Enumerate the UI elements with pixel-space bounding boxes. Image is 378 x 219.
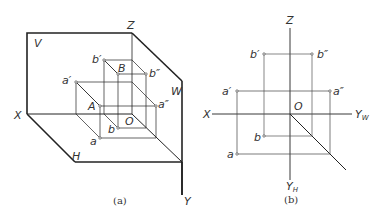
label-b-prime-b: b′ (250, 48, 260, 61)
h-plane-left-edge (27, 114, 75, 162)
label-b-double-prime: b″ (149, 67, 161, 80)
label-z: Z (126, 19, 135, 32)
label-a-b: a (227, 148, 234, 161)
label-z-b: Z (285, 14, 294, 27)
label-b-double-prime-b: b″ (317, 48, 329, 61)
label-y: Y (184, 195, 192, 208)
label-v-plane: V (34, 37, 43, 50)
caption-b: (b) (284, 194, 298, 205)
label-a-prime: a′ (62, 74, 72, 87)
label-b-b: b (254, 131, 261, 144)
label-yh: YH (286, 180, 299, 194)
label-b: b (108, 123, 115, 136)
label-a-double-prime-b: a″ (333, 85, 345, 98)
h-plane-outline (27, 114, 182, 195)
caption-a: (a) (113, 195, 127, 206)
figure-b-points (236, 53, 331, 155)
label-b-prime: b′ (92, 53, 102, 66)
label-yw: YW (355, 108, 370, 122)
figure-a-pictorial (27, 33, 182, 195)
figure-a-points (75, 59, 157, 139)
label-x-b: X (202, 108, 211, 121)
label-a: a (90, 135, 97, 148)
45-degree-line (290, 114, 346, 170)
label-a-prime-b: a′ (222, 85, 232, 98)
label-origin-b: O (294, 100, 303, 113)
label-h-plane: H (72, 150, 80, 163)
label-origin: O (125, 115, 134, 128)
label-a-double-prime: a″ (158, 98, 170, 111)
label-A: A (87, 100, 96, 113)
v-plane-outline (27, 33, 132, 114)
label-B: B (118, 62, 126, 75)
label-w-plane: W (171, 85, 183, 98)
label-x: X (13, 109, 22, 122)
figure-b-labels: Z X O YW YH b′ b″ a′ a″ b a (b) (202, 14, 370, 205)
